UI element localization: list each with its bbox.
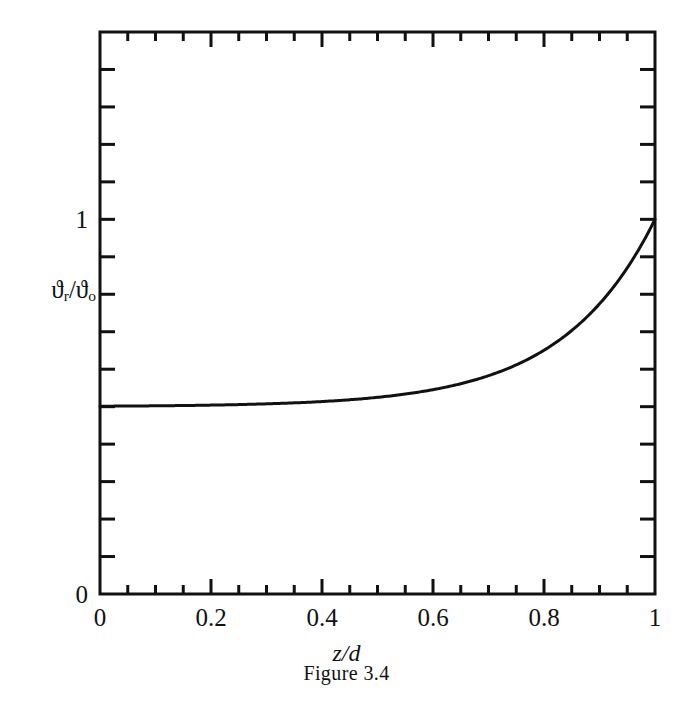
figure-caption: Figure 3.4 <box>0 662 693 685</box>
x-tick-label: 0.2 <box>195 604 226 631</box>
x-axis-ticks-top <box>128 32 628 47</box>
y-axis-title-text: ϑ <box>51 276 63 303</box>
y-axis-tick-labels: 01 <box>76 206 89 608</box>
x-tick-label: 0.8 <box>528 604 559 631</box>
y-axis-title-sub-o: o <box>88 287 96 304</box>
y-axis-title: ϑr/ϑo <box>22 277 96 304</box>
data-series-line <box>100 219 655 406</box>
y-axis-title-slash: /ϑ <box>69 276 88 303</box>
x-tick-label: 0.4 <box>306 604 338 631</box>
y-tick-label: 0 <box>76 581 89 608</box>
figure-container: 00.20.40.60.81 01 ϑr/ϑo z/d Figure 3.4 <box>0 0 693 702</box>
x-tick-label: 0.6 <box>417 604 448 631</box>
x-axis-ticks-bottom <box>128 579 628 594</box>
chart-plot: 00.20.40.60.81 01 <box>0 0 693 702</box>
x-tick-label: 0 <box>94 604 107 631</box>
y-axis-ticks-left <box>100 69 115 556</box>
plot-frame <box>100 32 655 594</box>
y-axis-ticks-right <box>640 69 655 556</box>
x-axis-tick-labels: 00.20.40.60.81 <box>94 604 662 631</box>
x-tick-label: 1 <box>649 604 662 631</box>
y-tick-label: 1 <box>76 206 89 233</box>
